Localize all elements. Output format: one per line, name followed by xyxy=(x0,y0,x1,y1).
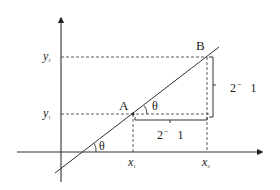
theta-axis-label: θ xyxy=(99,139,105,153)
x1-label: x1 xyxy=(127,155,136,169)
rise-bracket xyxy=(209,57,213,117)
x2-label: x2 xyxy=(201,155,210,169)
point-a-label: A xyxy=(119,98,129,113)
y2-label: y2 xyxy=(42,49,51,63)
angle-arc-axis xyxy=(94,144,96,153)
y1-label: y1 xyxy=(42,106,51,120)
point-b-label: B xyxy=(196,38,205,53)
point-a-marker xyxy=(132,113,135,116)
run-bracket xyxy=(135,117,207,120)
angle-arc-a xyxy=(144,106,147,115)
slope-diagram: A B θ θ y2 y1 x1 x2 2−1 2−1 xyxy=(0,0,280,190)
slope-line xyxy=(55,47,219,173)
run-label: 2−1 xyxy=(157,127,184,142)
rise-label: 2−1 xyxy=(230,80,257,95)
theta-a-label: θ xyxy=(152,99,158,113)
